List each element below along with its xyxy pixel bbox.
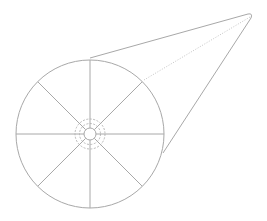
wheel-spoke: [38, 138, 86, 186]
funnel-group: [90, 14, 252, 153]
wheel-spoke: [94, 82, 142, 130]
wheel-spoke: [38, 82, 86, 130]
funnel-upper-edge: [90, 14, 252, 153]
funnel-center-line: [144, 17, 250, 80]
wheel: [16, 60, 164, 208]
wheel-spoke: [94, 138, 142, 186]
hub-axle: [84, 128, 96, 140]
wheel-funnel-diagram: [0, 0, 267, 221]
